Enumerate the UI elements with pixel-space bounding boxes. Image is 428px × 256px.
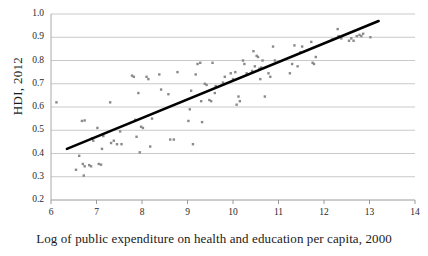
scatter-point (116, 143, 118, 145)
y-axis-title: HDI, 2012 (10, 38, 26, 134)
scatter-points-layer (55, 28, 371, 177)
scatter-point (313, 63, 315, 65)
scatter-point (235, 103, 237, 105)
scatter-point (234, 71, 236, 73)
scatter-point (293, 44, 295, 46)
gridlines (51, 14, 415, 200)
x-axis-tick-label: 7 (87, 208, 107, 218)
scatter-point (296, 65, 298, 67)
scatter-point (173, 138, 175, 140)
scatter-point (190, 90, 192, 92)
scatter-point (194, 73, 196, 75)
scatter-point (82, 163, 84, 165)
scatter-point (120, 143, 122, 145)
x-axis-tick-label: 9 (178, 208, 198, 218)
scatter-point (133, 76, 135, 78)
scatter-point (369, 36, 371, 38)
scatter-point (90, 165, 92, 167)
scatter-point (83, 165, 85, 167)
x-axis-tick-label: 11 (269, 208, 289, 218)
scatter-point (257, 56, 259, 58)
scatter-point (239, 100, 241, 102)
scatter-point (362, 33, 364, 35)
y-axis-tick-label: 1.0 (10, 9, 44, 19)
scatter-point (75, 169, 77, 171)
scatter-point (100, 163, 102, 165)
scatter-point (360, 35, 362, 37)
scatter-point (224, 76, 226, 78)
scatter-point (348, 40, 350, 42)
scatter-point (110, 142, 112, 144)
scatter-point (98, 163, 100, 165)
scatter-point (189, 108, 191, 110)
scatter-point (55, 101, 57, 103)
scatter-point (242, 59, 244, 61)
scatter-point (310, 41, 312, 43)
scatter-point (315, 56, 317, 58)
scatter-point (119, 130, 121, 132)
x-axis-tick-label: 8 (132, 208, 152, 218)
scatter-point (205, 84, 207, 86)
scatter-point (259, 78, 261, 80)
scatter-point (289, 72, 291, 74)
scatter-point (96, 127, 98, 129)
trend-line (67, 21, 379, 149)
scatter-point (147, 78, 149, 80)
x-axis-tick-marks (51, 200, 415, 204)
y-axis-tick-label: 0.3 (10, 172, 44, 182)
y-axis-tick-label: 0.2 (10, 195, 44, 205)
scatter-point (210, 100, 212, 102)
scatter-point (264, 95, 266, 97)
scatter-point (176, 71, 178, 73)
scatter-point (274, 59, 276, 61)
scatter-point (356, 35, 358, 37)
scatter-point (92, 140, 94, 142)
scatter-point (200, 100, 202, 102)
scatter-point (83, 174, 85, 176)
scatter-point (167, 93, 169, 95)
scatter-point (81, 120, 83, 122)
scatter-point (169, 138, 171, 140)
scatter-point (151, 117, 153, 119)
scatter-point (269, 76, 271, 78)
x-axis-title: Log of public expenditure on health and … (0, 231, 428, 247)
scatter-point (109, 101, 111, 103)
scatter-point (199, 62, 201, 64)
scatter-point (113, 140, 115, 142)
x-axis-tick-label: 6 (41, 208, 61, 218)
scatter-point (254, 65, 256, 67)
scatter-point (350, 37, 352, 39)
scatter-point (237, 95, 239, 97)
scatter-point (145, 76, 147, 78)
scatter-point (291, 63, 293, 65)
scatter-point (142, 127, 144, 129)
scatter-point (252, 50, 254, 52)
y-axis-tick-label: 0.4 (10, 149, 44, 159)
x-axis-tick-label: 12 (314, 208, 334, 218)
scatter-point (187, 120, 189, 122)
scatter-point (135, 136, 137, 138)
scatter-point (149, 145, 151, 147)
scatter-point (139, 151, 141, 153)
scatter-point (301, 45, 303, 47)
scatter-point (336, 28, 338, 30)
scatter-point (196, 63, 198, 65)
scatter-point (160, 88, 162, 90)
scatter-point (352, 40, 354, 42)
scatter-point (78, 155, 80, 157)
x-axis-tick-label: 14 (405, 208, 425, 218)
scatter-point (158, 73, 160, 75)
scatter-point (267, 72, 269, 74)
scatter-point (211, 62, 213, 64)
scatter-point (261, 59, 263, 61)
scatter-point (243, 63, 245, 65)
scatter-point (83, 119, 85, 121)
scatter-point (192, 143, 194, 145)
scatter-point (101, 148, 103, 150)
scatter-point (214, 92, 216, 94)
scatter-point (230, 72, 232, 74)
scatter-plot-canvas (0, 0, 428, 256)
scatter-point (201, 121, 203, 123)
x-axis-tick-label: 13 (360, 208, 380, 218)
scatter-point (137, 92, 139, 94)
